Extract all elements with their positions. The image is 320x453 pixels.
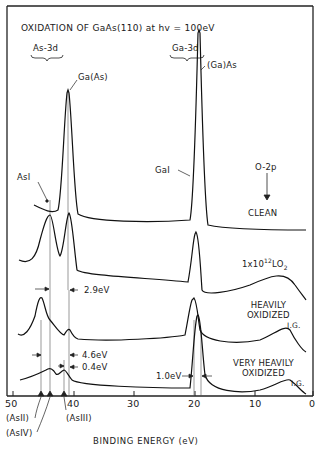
delta-1-0ev-label: 1.0eV [156, 371, 182, 381]
tick-30: 30 [127, 398, 140, 409]
ga3d-brace [170, 55, 204, 61]
ga1-label: GaI [155, 165, 170, 175]
as3d-brace [31, 55, 63, 61]
exposure-label: 1x1012LO2 [242, 257, 288, 271]
delta-0-4ev-label: 0.4eV [82, 362, 108, 372]
as3-marker-label: (AsIII) [66, 413, 92, 423]
tick-0: 0 [309, 398, 315, 409]
as4-marker-label: (AsIV) [6, 428, 32, 438]
chart-title: OXIDATION OF GaAs(110) at hv = 100eV [21, 23, 215, 33]
curve-very-heavily-oxidized [20, 315, 306, 394]
bottom-markers [35, 391, 67, 432]
ga3d-label: Ga-3d [172, 43, 199, 53]
xps-spectra-figure [0, 0, 320, 453]
clean-label: CLEAN [248, 208, 277, 218]
tick-10: 10 [249, 398, 262, 409]
ig-label-2: I.G. [291, 379, 305, 388]
very-heavily-oxidized-label: VERY HEAVILYOXIDIZED [233, 358, 294, 378]
ga-as-peak-label-2: (Ga)As [207, 60, 237, 70]
curve-clean [34, 30, 306, 230]
o2p-arrow [264, 173, 270, 200]
delta-4-6ev-label: 4.6eV [82, 350, 108, 360]
x-axis-label: BINDING ENERGY (eV) [93, 436, 199, 446]
delta-2-9ev-label: 2.9eV [84, 285, 110, 295]
heavily-oxidized-label: HEAVILYOXIDIZED [247, 300, 290, 320]
as3d-label: As-3d [33, 43, 58, 53]
ig-label-1: I.G. [287, 321, 301, 330]
tick-40: 40 [67, 398, 80, 409]
reference-lines [41, 90, 201, 396]
ga-as-peak-label: Ga(As) [78, 72, 108, 82]
tick-50: 50 [5, 398, 18, 409]
o2p-label: O-2p [255, 162, 277, 172]
as2-marker-label: (AsII) [6, 413, 29, 423]
as1-label: AsI [17, 172, 30, 182]
tick-20: 20 [188, 398, 201, 409]
x-ticks [13, 391, 313, 396]
leader-lines [38, 66, 205, 202]
